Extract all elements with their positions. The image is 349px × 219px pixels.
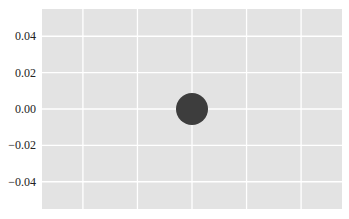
data-points <box>176 93 208 125</box>
y-axis-tick-labels: 0.040.020.00−0.02−0.04 <box>8 29 36 188</box>
scatter-chart: 0.040.020.00−0.02−0.04 <box>0 0 349 219</box>
y-tick-label: 0.00 <box>15 102 36 116</box>
y-tick-label: −0.02 <box>8 138 36 152</box>
y-tick-label: −0.04 <box>8 175 36 189</box>
data-point <box>176 93 208 125</box>
y-tick-label: 0.02 <box>15 66 36 80</box>
y-tick-label: 0.04 <box>15 29 36 43</box>
